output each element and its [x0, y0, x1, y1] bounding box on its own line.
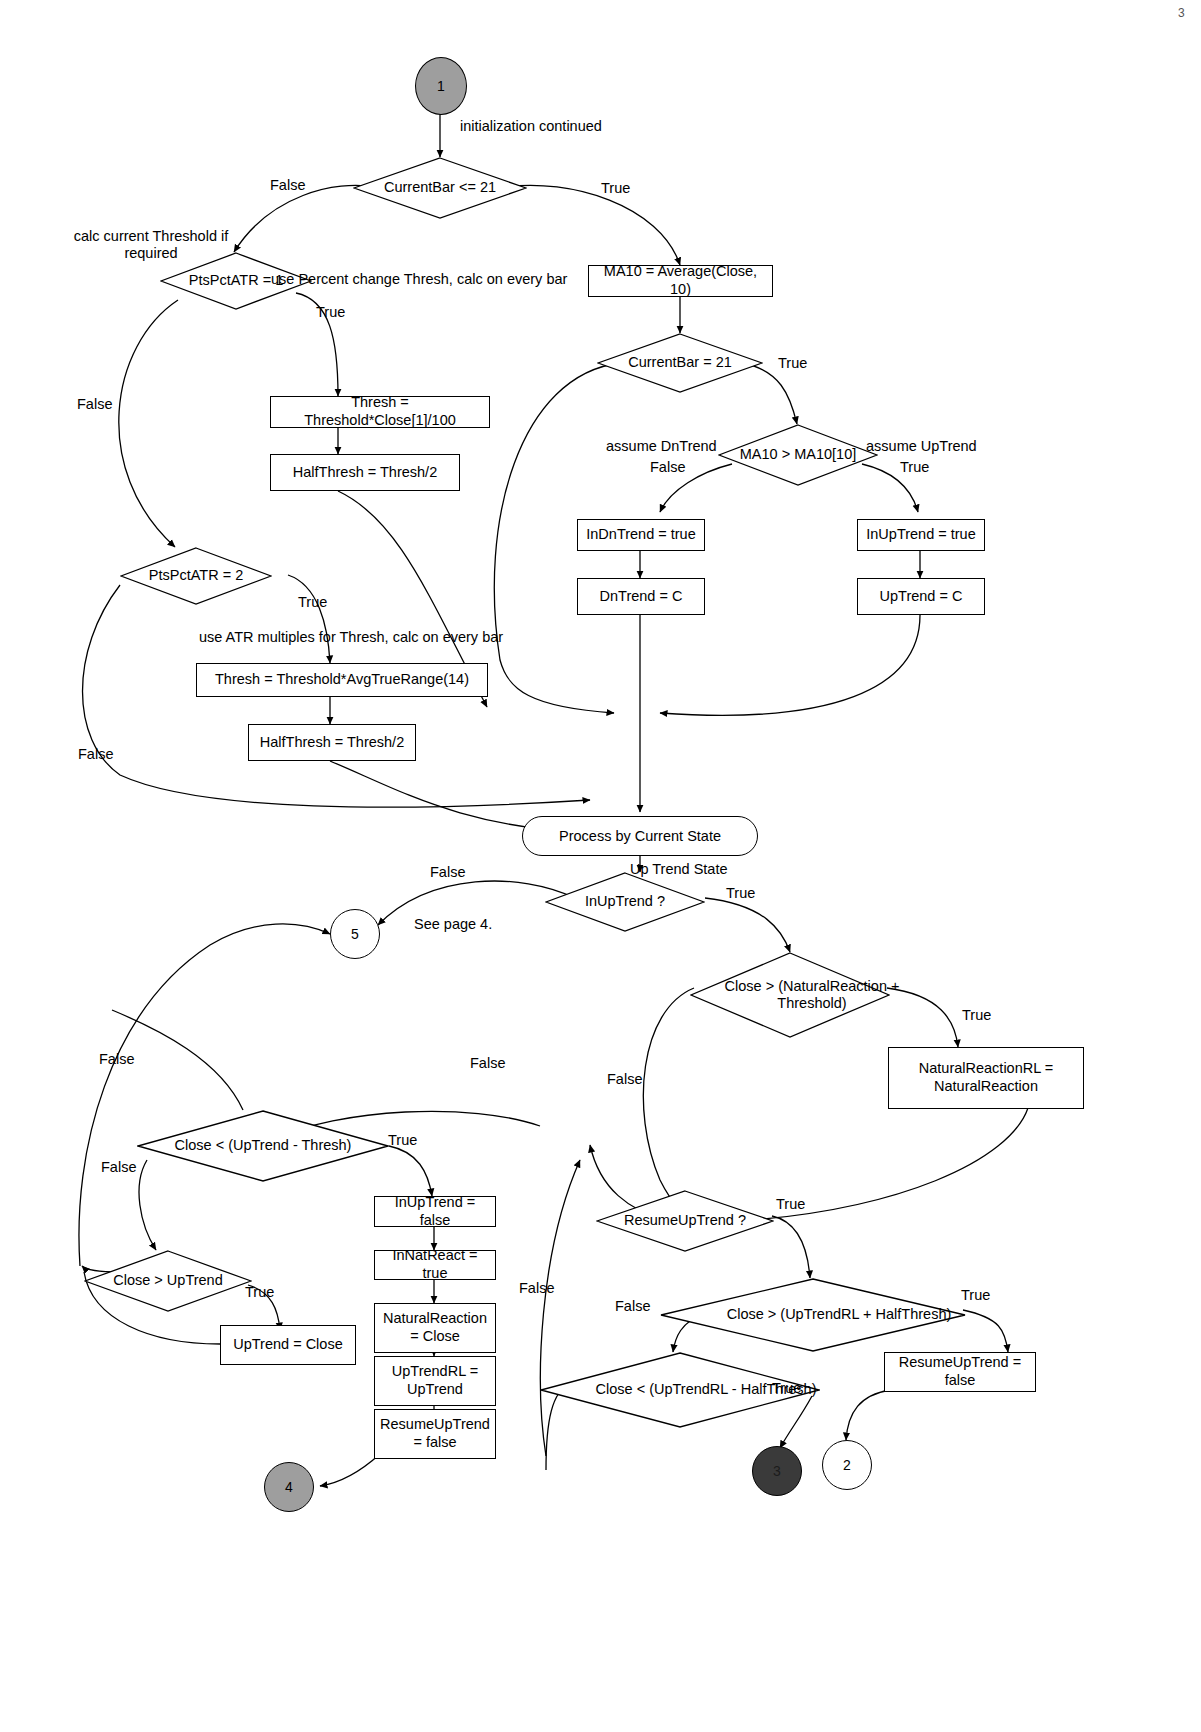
process-resumeuptrend-false-a[interactable]: ResumeUpTrend = false — [374, 1409, 496, 1459]
edge-label-currentbar-true: True — [601, 180, 630, 197]
edge-label-mid-false-column: False — [519, 1280, 554, 1297]
decision-resumeuptrend[interactable]: ResumeUpTrend ? — [596, 1190, 774, 1252]
note-use-percent-change-thresh: use Percent change Thresh, calc on every… — [271, 271, 567, 288]
connector-5[interactable]: 5 — [330, 909, 380, 959]
flowchart-canvas: 3 1 5 4 3 2 CurrentBar <= 21 PtsPctATR =… — [0, 0, 1201, 1732]
edge-label-inuptrend-false: False — [430, 864, 465, 881]
edge-label-ptspctatr2-false: False — [78, 746, 113, 763]
process-inuptrend-false[interactable]: InUpTrend = false — [374, 1196, 496, 1227]
edge-label-up-trend-state: Up Trend State — [630, 861, 728, 878]
edge-label-initialization-continued: initialization continued — [460, 118, 602, 135]
page-marker: 3 — [1178, 6, 1185, 20]
edge-label-currentbar-eq-true: True — [778, 355, 807, 372]
process-inuptrend-true[interactable]: InUpTrend = true — [857, 519, 985, 551]
decision-label: Close > (UpTrendRL + HalfThresh) — [660, 1306, 1018, 1323]
connector-1[interactable]: 1 — [415, 57, 467, 115]
connector-2[interactable]: 2 — [822, 1440, 872, 1490]
decision-currentbar-le-21[interactable]: CurrentBar <= 21 — [353, 157, 527, 219]
decision-label: Close > UpTrend — [84, 1272, 252, 1289]
process-uptrend-c[interactable]: UpTrend = C — [857, 578, 985, 615]
edge-label-cgu-true: True — [245, 1284, 274, 1301]
edge-label-close-gt-nr-false: False — [607, 1071, 642, 1088]
decision-close-gt-uptrend[interactable]: Close > UpTrend — [84, 1250, 252, 1312]
decision-close-gt-uptrendrl-halfthresh[interactable]: Close > (UpTrendRL + HalfThresh) — [660, 1278, 966, 1352]
edge-label-ma10-false: False — [650, 459, 685, 476]
note-see-page-4: See page 4. — [414, 916, 492, 933]
decision-close-lt-uptrend-thresh[interactable]: Close < (UpTrend - Thresh) — [137, 1110, 389, 1182]
note-assume-uptrend: assume UpTrend — [866, 438, 977, 455]
edge-label-close-gt-nr-true: True — [962, 1007, 991, 1024]
decision-ptspctatr-2[interactable]: PtsPctATR = 2 — [120, 547, 272, 605]
decision-label: MA10 > MA10[10] — [718, 446, 878, 463]
note-use-atr-multiples: use ATR multiples for Thresh, calc on ev… — [199, 629, 503, 646]
note-assume-dntrend: assume DnTrend — [606, 438, 717, 455]
edge-label-cguprl-false: False — [615, 1298, 650, 1315]
edge-label-ma10-true: True — [900, 459, 929, 476]
process-innatreact-true[interactable]: InNatReact = true — [374, 1250, 496, 1280]
edge-label-currentbar-false: False — [270, 177, 305, 194]
note-calc-current-threshold: calc current Threshold if required — [66, 228, 236, 263]
process-resumeuptrend-false-b[interactable]: ResumeUpTrend = false — [884, 1352, 1036, 1392]
edge-label-cltu-false-top: False — [470, 1055, 505, 1072]
process-thresh-percent[interactable]: Thresh = Threshold*Close[1]/100 — [270, 396, 490, 428]
process-uptrend-close[interactable]: UpTrend = Close — [220, 1325, 356, 1365]
decision-currentbar-eq-21[interactable]: CurrentBar = 21 — [597, 333, 763, 393]
process-halfthresh-percent[interactable]: HalfThresh = Thresh/2 — [270, 454, 460, 491]
edge-label-mid-false-left-loop: False — [99, 1051, 134, 1068]
decision-label: PtsPctATR = 2 — [120, 567, 272, 584]
edge-label-resumeuptrend-true: True — [776, 1196, 805, 1213]
decision-label: CurrentBar <= 21 — [353, 179, 527, 196]
decision-label: Close < (UpTrendRL - HalfThresh) — [540, 1381, 872, 1398]
decision-label: Close > (NaturalReaction + Threshold) — [690, 978, 934, 1013]
edge-label-cltu-true: True — [388, 1132, 417, 1149]
connector-3[interactable]: 3 — [752, 1446, 802, 1496]
decision-ma10-gt-ma10-10[interactable]: MA10 > MA10[10] — [718, 424, 878, 486]
process-ma10-average[interactable]: MA10 = Average(Close, 10) — [588, 265, 773, 297]
decision-label: ResumeUpTrend ? — [596, 1212, 774, 1229]
decision-label: Close < (UpTrend - Thresh) — [137, 1137, 389, 1154]
process-dntrend-c[interactable]: DnTrend = C — [577, 578, 705, 615]
terminal-process-by-current-state[interactable]: Process by Current State — [522, 816, 758, 856]
edge-label-ptspctatr1-false: False — [77, 396, 112, 413]
decision-label: CurrentBar = 21 — [597, 354, 763, 371]
edge-label-cguprl-true: True — [961, 1287, 990, 1304]
process-naturalreactionrl[interactable]: NaturalReactionRL = NaturalReaction — [888, 1047, 1084, 1109]
decision-inuptrend[interactable]: InUpTrend ? — [545, 872, 705, 932]
process-thresh-atr[interactable]: Thresh = Threshold*AvgTrueRange(14) — [196, 663, 488, 697]
connector-4[interactable]: 4 — [264, 1462, 314, 1512]
decision-close-gt-naturalreaction-threshold[interactable]: Close > (NaturalReaction + Threshold) — [690, 952, 890, 1038]
edge-label-ptspctatr2-true: True — [298, 594, 327, 611]
edge-label-cltu-false-left: False — [101, 1159, 136, 1176]
edge-label-inuptrend-true: True — [726, 885, 755, 902]
edge-label-ptspctatr1-true: True — [316, 304, 345, 321]
process-uptrendrl-uptrend[interactable]: UpTrendRL = UpTrend — [374, 1356, 496, 1406]
process-indntrend-true[interactable]: InDnTrend = true — [577, 519, 705, 551]
process-halfthresh-atr[interactable]: HalfThresh = Thresh/2 — [248, 724, 416, 761]
process-naturalreaction-close[interactable]: NaturalReaction = Close — [374, 1303, 496, 1353]
edge-label-cluprl-true: True — [772, 1380, 801, 1397]
decision-label: InUpTrend ? — [545, 893, 705, 910]
